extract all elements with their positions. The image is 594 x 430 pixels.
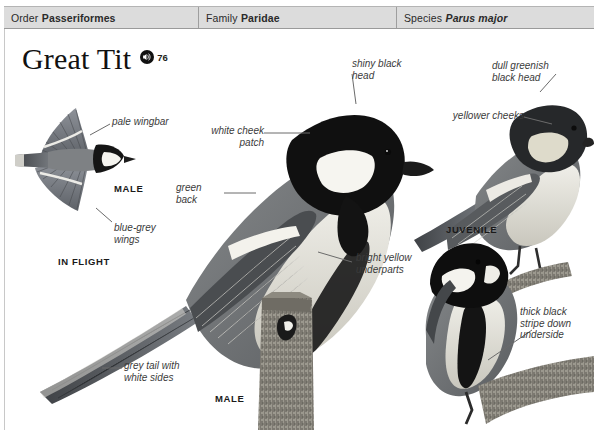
audio-track-number: 76: [157, 52, 168, 63]
page-border: [4, 29, 594, 430]
label-dull-greenish-black-head: dull greenish black head: [492, 60, 549, 83]
taxonomy-header-bar: Order Passeriformes Family Paridae Speci…: [4, 6, 594, 29]
bird-juvenile-perched: [414, 105, 594, 300]
label-thick-black-stripe: thick black stripe down underside: [520, 306, 571, 341]
taxonomy-cell-order: Order Passeriformes: [4, 7, 198, 28]
audio-reference: 76: [140, 50, 168, 64]
taxonomy-cell-species: Species Parus major: [396, 7, 594, 28]
leader-yellower-cheeks: [524, 117, 552, 124]
caption-in-flight: IN FLIGHT: [58, 256, 110, 267]
speaker-icon: [140, 50, 154, 64]
label-shiny-black-head: shiny black head: [352, 58, 401, 81]
leader-blue-grey-wings: [96, 208, 112, 222]
taxonomy-value-family: Paridae: [241, 12, 280, 24]
label-white-cheek-patch: white cheek patch: [194, 125, 264, 148]
taxonomy-rank-species: Species: [404, 12, 442, 24]
label-yellower-cheeks: yellower cheeks: [434, 110, 524, 122]
label-bright-yellow-underparts: bright yellow underparts: [356, 252, 412, 275]
page-title: Great Tit: [22, 44, 131, 74]
leader-bright-yellow-underparts: [318, 252, 352, 262]
taxonomy-value-order: Passeriformes: [42, 12, 116, 24]
taxonomy-cell-family: Family Paridae: [198, 7, 396, 28]
taxonomy-rank-order: Order: [11, 12, 38, 24]
leader-pale-wingbar: [90, 124, 110, 135]
taxonomy-value-species: Parus major: [446, 12, 508, 24]
label-grey-tail-white-sides: grey tail with white sides: [124, 360, 180, 383]
page-title-row: Great Tit 76: [22, 44, 168, 74]
label-green-back: green back: [176, 182, 202, 205]
caption-juvenile: JUVENILE: [446, 224, 497, 235]
caption-male-perched: MALE: [215, 393, 244, 404]
caption-male-in-flight: MALE: [114, 183, 143, 194]
field-guide-page: Order Passeriformes Family Paridae Speci…: [0, 0, 594, 430]
label-blue-grey-wings: blue-grey wings: [114, 222, 156, 245]
label-pale-wingbar: pale wingbar: [112, 116, 169, 128]
taxonomy-rank-family: Family: [206, 12, 238, 24]
